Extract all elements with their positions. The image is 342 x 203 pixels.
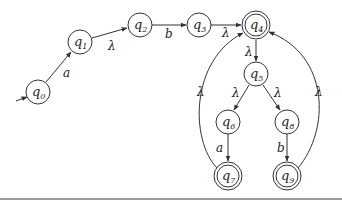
state-q8: q8: [275, 110, 299, 134]
state-q5: q5: [244, 62, 268, 86]
edge-q4-q5: λ: [244, 40, 256, 61]
state-q3: q3: [187, 13, 211, 37]
edge-label: λ: [314, 85, 323, 99]
edge-q2-q3: b: [152, 25, 186, 41]
edge-q5-q6: λ: [231, 85, 249, 110]
start-arrow: [16, 97, 27, 101]
edge-q0-q1: a: [46, 52, 71, 82]
edge-q8-q9: b: [277, 134, 287, 161]
edge-label: λ: [196, 85, 205, 99]
state-q9-accepting: q9: [273, 162, 301, 190]
edge-label: λ: [231, 86, 240, 100]
edge-label: b: [277, 141, 285, 155]
state-q2: q2: [128, 13, 152, 37]
edge-q1-q2: λ: [92, 28, 127, 53]
edge-q3-q4: λ: [211, 25, 241, 40]
edge-q6-q7: a: [216, 134, 228, 161]
state-q7-accepting: q7: [214, 162, 242, 190]
state-q0: q0: [26, 80, 50, 104]
state-q4-accepting: q4: [242, 11, 270, 39]
edge-label: λ: [273, 86, 282, 100]
state-q1: q1: [68, 30, 92, 54]
edge-q5-q8: λ: [263, 85, 282, 110]
state-q6: q6: [216, 110, 240, 134]
edge-label: a: [216, 141, 223, 155]
edge-label: λ: [107, 39, 116, 53]
edge-label: λ: [244, 45, 253, 59]
edge-label: λ: [221, 26, 230, 40]
automaton-diagram: a λ b λ λ λ λ a b λ λ q0: [0, 0, 342, 203]
edge-label: a: [63, 66, 70, 80]
edge-label: b: [165, 27, 173, 41]
